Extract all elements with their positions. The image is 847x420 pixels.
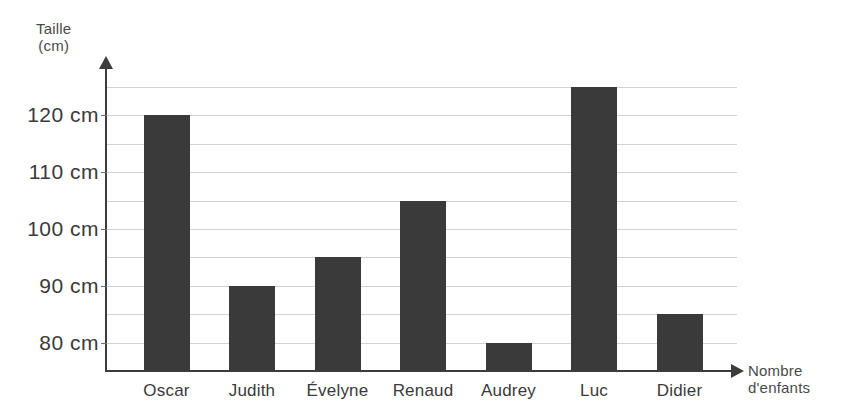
x-axis-title: Nombre d'enfants [748,362,810,396]
y-axis-tick-mark [101,172,107,173]
y-axis-tick-label: 80 cm [39,332,99,353]
y-axis-tick-label: 120 cm [27,104,99,125]
y-axis-tick-mark [101,286,107,287]
y-axis-tick-mark [101,229,107,230]
gridline [107,172,737,173]
bar [229,286,275,371]
gridline [107,115,737,116]
y-axis-tick-label: 100 cm [27,218,99,239]
y-axis-tick-labels: 120 cm110 cm100 cm90 cm80 cm [0,0,99,420]
y-axis-tick-mark [101,343,107,344]
bar [486,343,532,371]
plot-area [107,58,741,371]
up-arrow-icon [99,56,113,69]
bar [144,115,190,371]
gridline [107,144,737,145]
x-axis-category-label: Didier [620,381,740,400]
bar [400,201,446,371]
right-arrow-icon [731,364,744,378]
x-axis-line [105,370,733,372]
y-axis-tick-mark [101,115,107,116]
bar [657,314,703,371]
y-axis-line [105,66,107,372]
y-axis-tick-label: 110 cm [29,161,99,182]
y-axis-tick-label: 90 cm [39,275,99,296]
bar [315,257,361,371]
bar [571,87,617,371]
gridline [107,87,737,88]
bar-chart-figure: Taille (cm) Nombre d'enfants 120 cm110 c… [0,0,847,420]
